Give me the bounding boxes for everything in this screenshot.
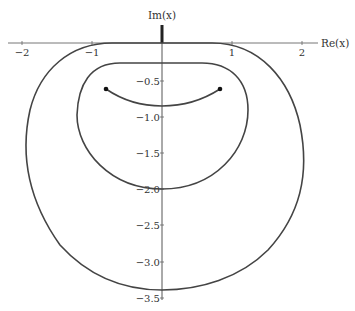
- arc-endpoint-right: [218, 87, 223, 92]
- x-tick-label: −1: [85, 47, 100, 58]
- y-tick-label: −0.5: [136, 76, 160, 87]
- y-tick-label: −2.5: [136, 220, 160, 231]
- outer-closed-curve: [26, 43, 304, 290]
- x-tick-label: 2: [299, 47, 305, 58]
- x-tick-label: 1: [229, 47, 235, 58]
- y-tick-label: −1.0: [136, 112, 160, 123]
- y-tick-label: −1.5: [136, 148, 160, 159]
- y-tick-label: −3.5: [136, 293, 160, 304]
- y-tick-label: −3.0: [136, 257, 160, 268]
- inner-open-arc: [106, 89, 220, 106]
- axes: [8, 43, 318, 300]
- arc-endpoint-left: [104, 87, 109, 92]
- x-tick-label: −2: [15, 47, 30, 58]
- x-axis-label: Re(x): [321, 37, 349, 49]
- complex-plane-plot: −2 −1 1 2 −0.5 −1.0 −1.5 −2.0 −2.5 −3.0 …: [0, 0, 355, 311]
- y-axis-label: Im(x): [148, 9, 176, 21]
